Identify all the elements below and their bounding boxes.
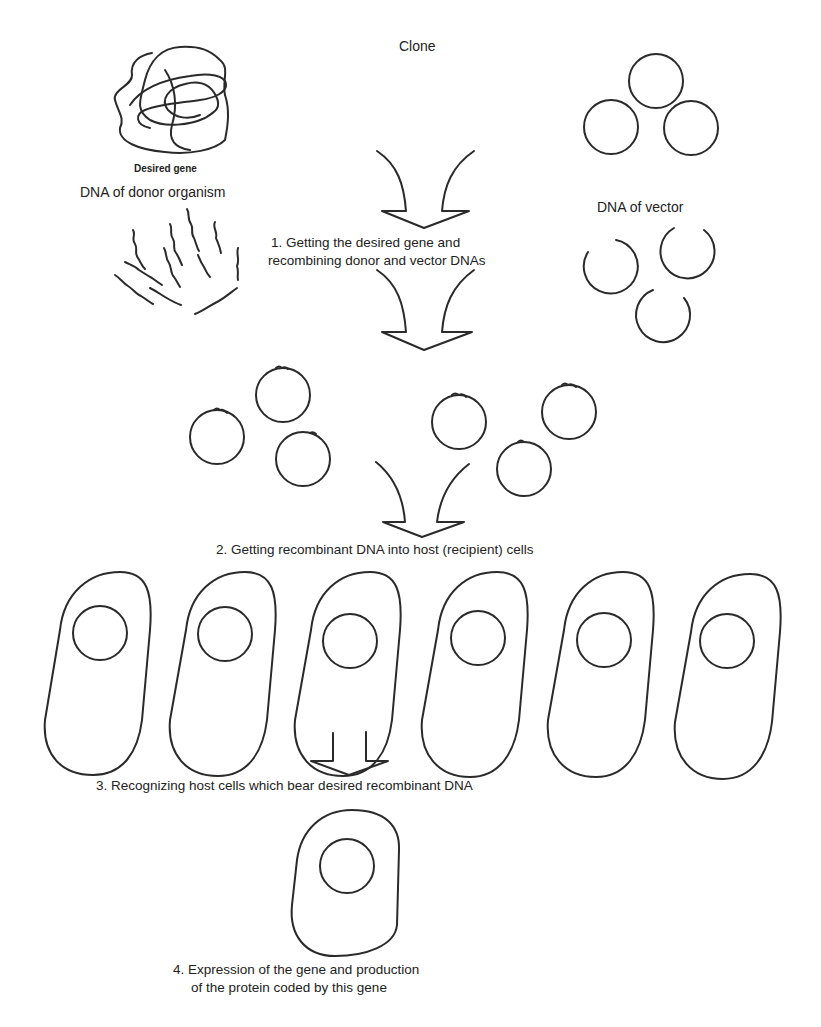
cut-plasmid-icon — [661, 228, 715, 278]
recombinant-plasmid-icon — [256, 368, 310, 422]
arrow-down-icon — [376, 462, 469, 537]
host-cell-icon — [422, 572, 528, 777]
host-cell-icon — [295, 572, 401, 776]
plasmid-icon — [584, 100, 638, 154]
vector-plasmids-group — [584, 54, 718, 155]
step-4-line-2: of the protein coded by this gene — [191, 980, 387, 996]
plasmid-icon — [664, 101, 718, 155]
arrow-down-icon — [377, 270, 474, 350]
step-2-label: 2. Getting recombinant DNA into host (re… — [216, 542, 533, 558]
recombinant-plasmid-icon — [542, 385, 596, 439]
dna-fragments-icon — [115, 209, 238, 314]
tangled-dna-coil-icon — [115, 47, 228, 153]
cut-plasmid-icon — [584, 240, 638, 293]
arrow-down-icon — [311, 732, 388, 775]
cut-plasmid-icon — [636, 290, 690, 342]
recombinant-plasmid-icon — [190, 410, 244, 464]
arrow-down-icon — [377, 151, 474, 228]
donor-dna-label: DNA of donor organism — [80, 184, 226, 200]
step-3-label: 3. Recognizing host cells which bear des… — [96, 778, 473, 794]
desired-gene-label: Desired gene — [134, 163, 197, 175]
host-cells-group — [45, 572, 781, 779]
host-cell-icon — [45, 572, 151, 775]
recombinant-plasmid-icon — [276, 432, 330, 486]
recombinant-plasmids-group — [190, 367, 596, 497]
diagram-artwork — [0, 0, 821, 1027]
step-1-line-2: recombining donor and vector DNAs — [268, 253, 486, 269]
host-cell-icon — [170, 572, 276, 776]
step-1-line-1: 1. Getting the desired gene and — [271, 235, 460, 251]
host-cell-icon — [548, 572, 654, 777]
vector-dna-label: DNA of vector — [597, 199, 683, 215]
clone-title: Clone — [399, 38, 436, 54]
recombinant-dna-cloning-diagram: Clone Desired gene DNA of donor organism… — [0, 0, 821, 1027]
recombinant-plasmid-icon — [432, 395, 486, 449]
recombinant-plasmid-icon — [497, 442, 551, 496]
host-cell-icon — [675, 574, 781, 779]
step-4-line-1: 4. Expression of the gene and production — [173, 962, 419, 978]
cut-plasmids-group — [584, 228, 715, 342]
plasmid-icon — [629, 54, 683, 108]
selected-host-cell-icon — [292, 810, 399, 956]
